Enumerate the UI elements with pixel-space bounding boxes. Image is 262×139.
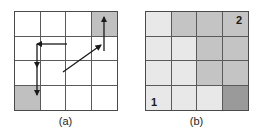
grid-cell [197,12,223,37]
grid-cell-label: 2 [236,15,242,26]
grid-cell: 2 [223,12,249,37]
grid-cell [223,86,249,111]
grid-cell [66,86,92,111]
grid-cell [146,61,172,86]
grid-cell [197,86,223,111]
grid-b-wrapper: 21 [145,11,249,111]
grid-cell [223,37,249,62]
grid-a-wrapper [14,11,118,111]
grid-cell [172,12,198,37]
grid-cell: 1 [146,86,172,111]
grid-cell [41,86,67,111]
grid-cell [146,12,172,37]
grid-cell [66,61,92,86]
grid-cell [172,37,198,62]
grid-cell [15,86,41,111]
grid-cell [197,61,223,86]
grid-cell [41,37,67,62]
grid-cell [66,12,92,37]
grid-cell [172,86,198,111]
grid-a [14,11,118,111]
panel-b: 21 (b) [131,0,262,139]
grid-cell [41,12,67,37]
grid-cell [41,61,67,86]
grid-cell [197,37,223,62]
caption-a: (a) [0,115,131,127]
grid-cell [66,37,92,62]
grid-cell [172,61,198,86]
grid-cell [15,61,41,86]
grid-cell [92,37,118,62]
panel-a: (a) [0,0,131,139]
grid-cell [92,12,118,37]
grid-cell [146,37,172,62]
figure-container: (a) 21 (b) [0,0,262,139]
grid-cell [92,61,118,86]
grid-cell [15,37,41,62]
grid-cell [223,61,249,86]
grid-b: 21 [145,11,249,111]
caption-b: (b) [131,115,262,127]
grid-cell [92,86,118,111]
grid-cell [15,12,41,37]
grid-cell-label: 1 [151,97,157,108]
